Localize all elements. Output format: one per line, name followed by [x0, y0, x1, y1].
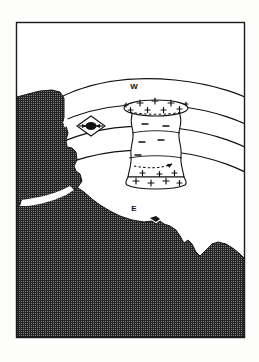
- hourglass-column: [124, 98, 188, 189]
- top-ellipse-plus: [124, 100, 188, 116]
- figure-content: W E: [10, 23, 259, 337]
- figure-canvas: W E: [0, 0, 259, 362]
- figure-root: W E: [0, 0, 259, 362]
- column-body: [128, 108, 184, 177]
- label-east: E: [131, 204, 137, 213]
- lens-core: [86, 122, 97, 130]
- label-west: W: [130, 82, 138, 91]
